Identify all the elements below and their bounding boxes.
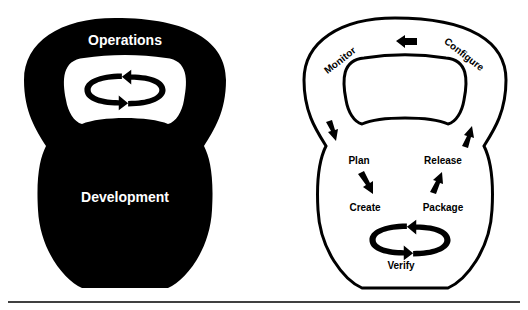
left-kettlebell-handle-hole (64, 55, 186, 124)
label-verify: Verify (387, 260, 415, 271)
right-kettlebell: Monitor Configure Plan Release Create Pa… (304, 18, 506, 288)
right-kettlebell-handle-hole (344, 55, 466, 124)
label-plan: Plan (348, 155, 369, 166)
label-operations: Operations (88, 32, 162, 48)
label-package: Package (423, 202, 464, 213)
left-kettlebell: Operations Development (24, 18, 226, 288)
devops-kettlebell-diagram: Operations Development Monitor Configure… (0, 0, 528, 310)
label-development: Development (81, 189, 169, 205)
label-create: Create (349, 202, 381, 213)
label-release: Release (424, 155, 462, 166)
